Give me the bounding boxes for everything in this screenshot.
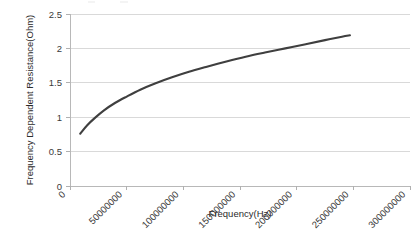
- y-tick-label: 0.5: [49, 146, 62, 157]
- x-tick-label: 300000000: [366, 189, 407, 230]
- y-tick-marks: [66, 14, 70, 186]
- x-tick-label: 100000000: [139, 189, 180, 230]
- y-axis-title: Frequency Dependent Resistance(Ohm): [24, 15, 35, 186]
- y-tick-label: 2: [57, 43, 62, 54]
- x-tick-marks: [70, 186, 410, 190]
- x-tick-label: 50000000: [86, 189, 124, 227]
- gridlines-horizontal: [70, 14, 410, 152]
- y-tick-labels: 2.5 2 1.5 1 0.5 0: [49, 9, 62, 192]
- y-tick-label: 1: [57, 112, 62, 123]
- x-axis-title: Frequency(Hz): [209, 208, 272, 219]
- resistance-vs-frequency-chart: 2.5 2 1.5 1 0.5 0 0 50000000 100000000 1…: [0, 0, 419, 249]
- series-group: [80, 35, 350, 133]
- data-series-line: [80, 35, 350, 133]
- y-tick-label: 2.5: [49, 9, 62, 20]
- x-tick-label: 250000000: [309, 189, 350, 230]
- y-tick-label: 1.5: [49, 77, 62, 88]
- chart-container: 2.5 2 1.5 1 0.5 0 0 50000000 100000000 1…: [0, 0, 419, 249]
